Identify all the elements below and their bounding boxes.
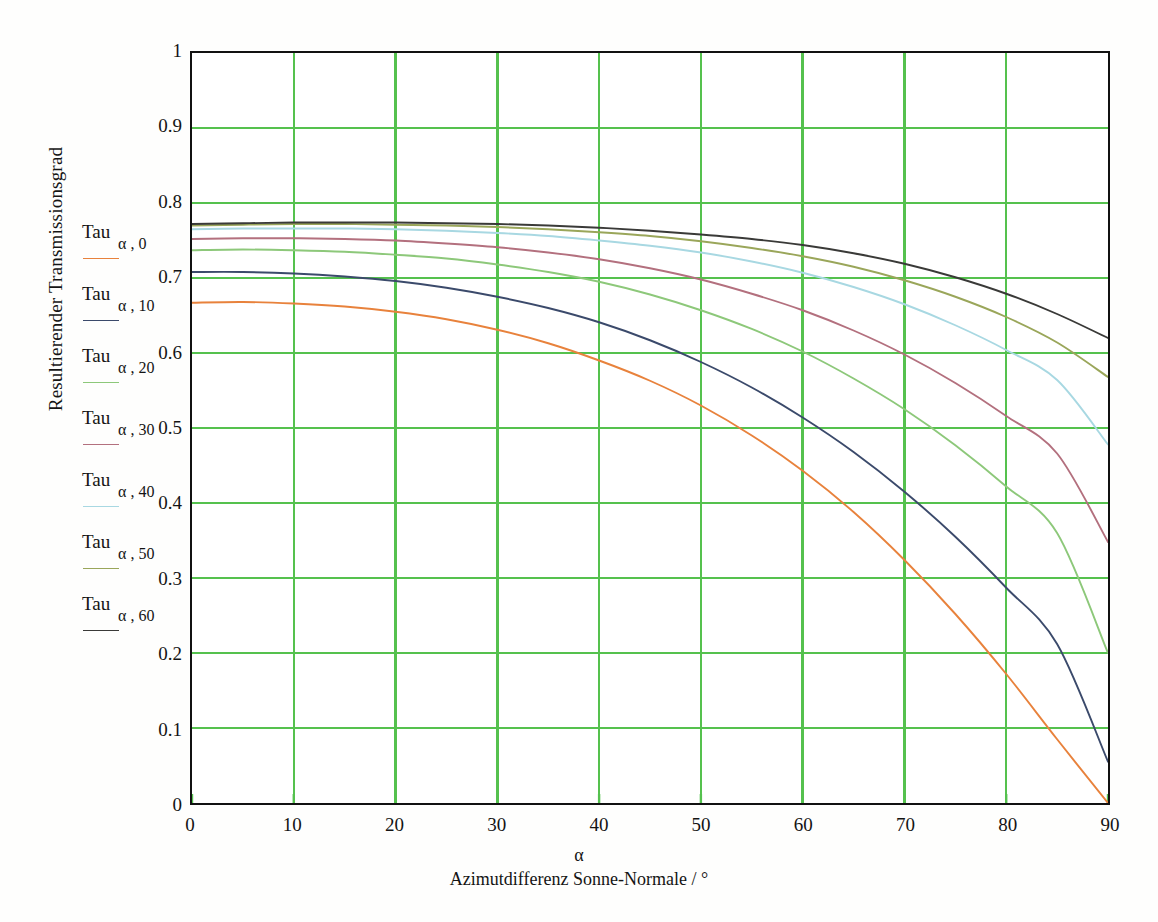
curves-svg	[192, 53, 1108, 803]
legend-item-label: Tau	[82, 594, 110, 614]
legend-item-label: Tau	[82, 532, 110, 552]
x-tick-label: 50	[671, 815, 731, 834]
x-tick-label: 60	[773, 815, 833, 834]
y-tick-label: 0.5	[122, 418, 182, 437]
series-line	[192, 228, 1108, 444]
legend-item-subscript: α , 10	[118, 297, 154, 315]
legend-item-label: Tau	[82, 346, 110, 366]
legend-item-label: Tau	[82, 222, 110, 242]
legend-color-swatch	[83, 506, 119, 507]
plot-inner	[192, 53, 1108, 803]
series-line	[192, 238, 1108, 542]
y-axis-title: Resultierender Transmissionsgrad	[45, 119, 67, 439]
legend-item-label: Tau	[82, 470, 110, 490]
legend-color-swatch	[83, 382, 119, 383]
legend-item-subscript: α , 0	[118, 235, 146, 253]
y-tick-label: 0.9	[122, 116, 182, 135]
legend-color-swatch	[83, 320, 119, 321]
y-tick-label: 1	[122, 41, 182, 60]
y-tick-label: 0.6	[122, 343, 182, 362]
legend-color-swatch	[83, 444, 119, 445]
x-tick-label: 90	[1080, 815, 1140, 834]
series-line	[192, 250, 1108, 653]
y-tick-label: 0.2	[122, 644, 182, 663]
legend-item-label: Tau	[82, 408, 110, 428]
chart-figure: Resultierender Transmissionsgrad Tauα , …	[0, 0, 1158, 922]
y-tick-label: 0.1	[122, 720, 182, 739]
x-axis-title: Azimutdifferenz Sonne-Normale / °	[0, 869, 1158, 890]
chart-legend: Tauα , 0Tauα , 10Tauα , 20Tauα , 30Tauα …	[82, 222, 186, 656]
x-tick-label: 40	[569, 815, 629, 834]
legend-item-subscript: α , 60	[118, 607, 154, 625]
legend-color-swatch	[83, 258, 119, 259]
series-line	[192, 222, 1108, 338]
y-tick-label: 0	[122, 795, 182, 814]
x-tick-label: 10	[262, 815, 322, 834]
x-tick-label: 20	[364, 815, 424, 834]
series-line	[192, 272, 1108, 762]
x-axis-symbol: α	[0, 845, 1158, 866]
y-tick-label: 0.8	[122, 192, 182, 211]
legend-item-subscript: α , 50	[118, 545, 154, 563]
legend-item-subscript: α , 20	[118, 359, 154, 377]
x-tick-label: 30	[467, 815, 527, 834]
y-tick-label: 0.7	[122, 267, 182, 286]
x-tick-label: 80	[978, 815, 1038, 834]
legend-color-swatch	[83, 630, 119, 631]
y-tick-label: 0.3	[122, 569, 182, 588]
legend-item-label: Tau	[82, 284, 110, 304]
plot-area	[190, 51, 1110, 805]
legend-color-swatch	[83, 568, 119, 569]
legend-item: Tauα , 10	[82, 284, 186, 346]
y-tick-label: 0.4	[122, 493, 182, 512]
x-tick-label: 0	[160, 815, 220, 834]
x-tick-label: 70	[876, 815, 936, 834]
